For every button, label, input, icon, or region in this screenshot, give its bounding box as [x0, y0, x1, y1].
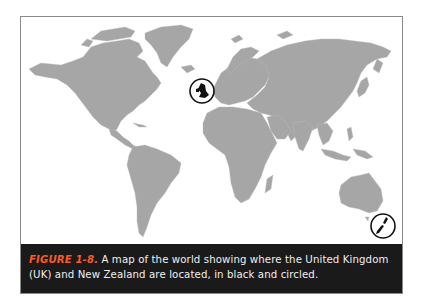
- south-america: [127, 145, 181, 237]
- indonesia: [321, 149, 351, 161]
- world-map-svg: [21, 17, 402, 243]
- figure-frame: FIGURE 1-8. A map of the world showing w…: [20, 16, 403, 294]
- australia: [339, 173, 383, 213]
- nz-north-island: [383, 217, 388, 224]
- ireland-shape: [196, 88, 199, 92]
- uk-highlight: [190, 79, 214, 103]
- uk-shape: [198, 83, 209, 98]
- greenland: [145, 25, 193, 67]
- north-america: [29, 39, 161, 133]
- figure-label: FIGURE 1-8.: [29, 254, 98, 265]
- japan: [357, 77, 369, 97]
- india: [293, 121, 313, 151]
- figure-caption: FIGURE 1-8. A map of the world showing w…: [21, 244, 402, 293]
- central-america: [109, 129, 137, 149]
- nz-highlight: [371, 214, 395, 238]
- southeast-asia: [317, 123, 333, 145]
- nz-south-island: [376, 225, 384, 234]
- world-map: [21, 17, 402, 243]
- iceland: [181, 65, 195, 73]
- madagascar: [265, 175, 273, 193]
